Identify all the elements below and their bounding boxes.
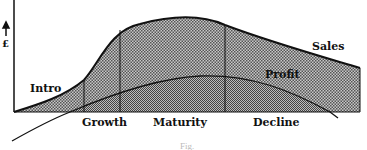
figure-caption: Fig. (180, 141, 194, 150)
product-life-cycle-diagram: £ Sales Profit Intro Growth Maturity Dec… (0, 0, 367, 150)
stage-label-growth: Growth (82, 116, 127, 129)
profit-label: Profit (265, 68, 300, 81)
up-arrow-icon (3, 22, 9, 36)
sales-label: Sales (312, 40, 344, 53)
stage-label-decline: Decline (253, 116, 300, 129)
stage-label-maturity: Maturity (153, 116, 207, 129)
stage-label-intro: Intro (30, 82, 61, 95)
y-axis-label: £ (2, 38, 9, 49)
